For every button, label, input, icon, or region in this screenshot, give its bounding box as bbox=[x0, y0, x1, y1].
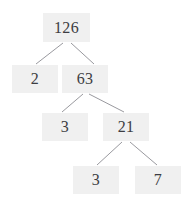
tree-node-label: 21 bbox=[118, 119, 135, 135]
tree-edge bbox=[62, 94, 83, 112]
tree-edge bbox=[130, 142, 157, 165]
tree-node: 126 bbox=[43, 13, 90, 42]
tree-node: 7 bbox=[135, 166, 181, 194]
tree-node-label: 63 bbox=[77, 71, 94, 87]
tree-node-label: 126 bbox=[54, 20, 79, 36]
tree-node: 3 bbox=[73, 166, 119, 194]
tree-node-label: 7 bbox=[154, 172, 162, 188]
tree-node: 2 bbox=[12, 65, 58, 93]
tree-node: 3 bbox=[42, 113, 88, 141]
tree-node-label: 2 bbox=[31, 71, 39, 87]
tree-node: 63 bbox=[62, 65, 108, 93]
tree-node-label: 3 bbox=[92, 172, 100, 188]
tree-edge bbox=[71, 43, 94, 64]
factor-tree-figure: 12626332137 bbox=[0, 0, 185, 202]
tree-edge bbox=[89, 94, 124, 112]
tree-edge bbox=[97, 142, 122, 165]
tree-node-label: 3 bbox=[61, 119, 69, 135]
tree-edge bbox=[36, 43, 63, 64]
tree-node: 21 bbox=[103, 113, 149, 141]
